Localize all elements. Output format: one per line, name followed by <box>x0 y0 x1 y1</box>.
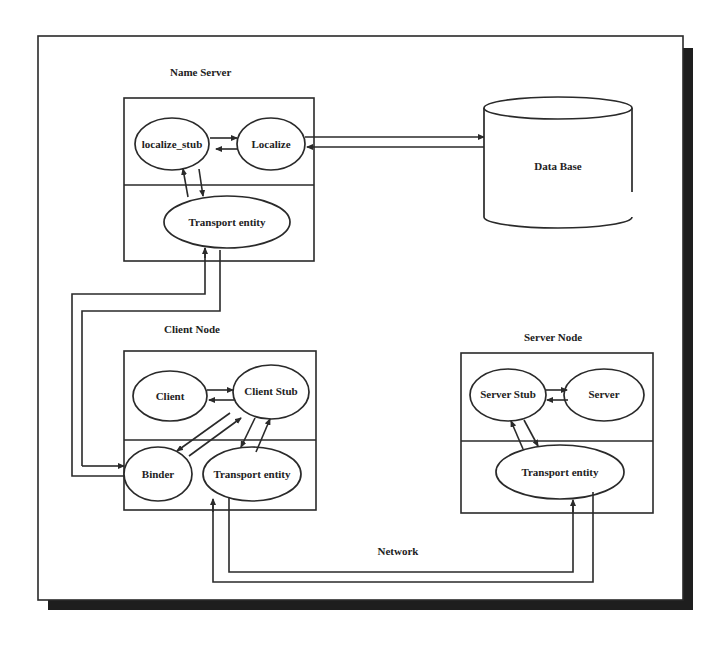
client-stub-node: Client Stub <box>233 365 309 419</box>
client-transport-node: Transport entity <box>203 447 301 501</box>
server-node-title: Server Node <box>524 331 582 343</box>
localize-node: Localize <box>237 118 305 170</box>
network-label: Network <box>378 545 420 557</box>
database-label: Data Base <box>534 160 581 172</box>
server-stub-label: Server Stub <box>480 388 536 400</box>
binder-label: Binder <box>142 468 175 480</box>
server-transport-node: Transport entity <box>496 445 624 499</box>
outer-frame <box>38 36 683 600</box>
client-stub-label: Client Stub <box>244 385 298 397</box>
server-stub-node: Server Stub <box>470 369 546 421</box>
client-node-client: Client <box>133 371 207 421</box>
rpc-architecture-diagram: Name Server localize_stub Localize Trans… <box>0 0 726 652</box>
frame-shadow-right <box>683 48 693 610</box>
frame-shadow-bottom <box>48 600 693 610</box>
name-server-transport-label: Transport entity <box>188 216 266 228</box>
server-label: Server <box>588 388 619 400</box>
server-node-server: Server <box>564 369 644 421</box>
name-server-title: Name Server <box>170 66 232 78</box>
binder-node: Binder <box>124 447 192 501</box>
name-server-transport-node: Transport entity <box>164 196 290 248</box>
localize-stub-label: localize_stub <box>142 138 203 150</box>
client-label: Client <box>156 390 185 402</box>
localize-stub-node: localize_stub <box>135 118 209 170</box>
client-node-title: Client Node <box>164 323 220 335</box>
localize-label: Localize <box>251 138 290 150</box>
client-transport-label: Transport entity <box>213 468 291 480</box>
server-transport-label: Transport entity <box>521 466 599 478</box>
